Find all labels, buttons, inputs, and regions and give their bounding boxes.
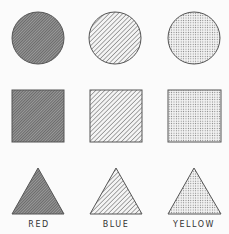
red-square	[12, 90, 64, 142]
blue-circle	[89, 12, 141, 64]
blue-square	[90, 90, 142, 142]
red-triangle	[12, 168, 64, 214]
yellow-square	[168, 90, 221, 142]
shapes-diagram	[0, 0, 229, 234]
red-circle	[12, 12, 64, 64]
label-blue: BLUE	[81, 220, 151, 229]
yellow-circle	[168, 12, 220, 64]
label-yellow: YELLOW	[159, 220, 229, 229]
blue-triangle	[90, 168, 142, 214]
label-red: RED	[4, 220, 74, 229]
yellow-triangle	[168, 168, 221, 214]
